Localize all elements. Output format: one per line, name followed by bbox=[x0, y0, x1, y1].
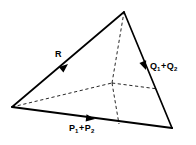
label-p2-subscript: 2 bbox=[91, 128, 94, 134]
label-p2-base: P bbox=[85, 123, 91, 133]
hidden-edge-rear-to-bottom bbox=[112, 83, 119, 124]
label-q1-subscript: 1 bbox=[157, 66, 160, 72]
label-q2-base: Q bbox=[167, 61, 174, 71]
label-p1-subscript: 1 bbox=[75, 128, 78, 134]
edge-left-to-apex bbox=[12, 12, 124, 107]
hidden-edge-rear-to-apex bbox=[112, 12, 124, 83]
label-resultant-base: R bbox=[55, 49, 62, 59]
label-resultant-R: R bbox=[55, 50, 62, 59]
label-bottom-edge-P1-plus-P2: P1+P2 bbox=[69, 124, 94, 133]
arrowhead-bottom-edge-icon bbox=[86, 114, 96, 122]
visible-edges bbox=[12, 12, 172, 128]
hidden-edges bbox=[12, 12, 158, 124]
hidden-edge-rear-to-right bbox=[112, 83, 158, 89]
label-right-edge-Q1-plus-Q2: Q1+Q2 bbox=[150, 62, 177, 71]
label-q2-subscript: 2 bbox=[174, 66, 177, 72]
tetrahedron-drawing bbox=[0, 0, 196, 145]
tetrahedron-figure: R Q1+Q2 P1+P2 bbox=[0, 0, 196, 145]
vector-arrowheads bbox=[59, 60, 150, 122]
